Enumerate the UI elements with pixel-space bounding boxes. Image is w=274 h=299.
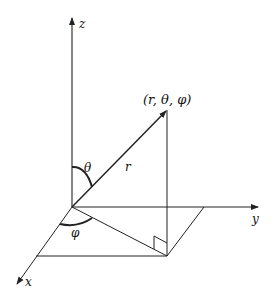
z-axis-label: z bbox=[79, 18, 85, 30]
phi-label: φ bbox=[71, 227, 79, 239]
radius-label: r bbox=[125, 161, 131, 173]
point-label: (r, θ, φ) bbox=[143, 93, 191, 106]
spherical-coordinates-diagram: z y x (r, θ, φ) r θ φ bbox=[0, 0, 274, 299]
x-axis-label: x bbox=[25, 276, 32, 288]
y-axis-label: y bbox=[252, 213, 259, 225]
right-angle-mark bbox=[154, 236, 167, 249]
radius-vector bbox=[72, 111, 166, 207]
phi-arc bbox=[60, 218, 92, 225]
theta-label: θ bbox=[84, 162, 91, 174]
plane-right-edge bbox=[167, 207, 204, 256]
diagram-canvas bbox=[0, 0, 274, 299]
projection-line bbox=[72, 207, 167, 256]
x-axis bbox=[17, 207, 72, 284]
